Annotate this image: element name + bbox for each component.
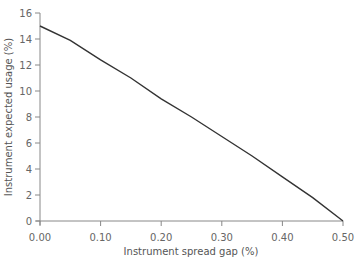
y-tick-label: 6 xyxy=(26,138,32,149)
x-axis: 0.000.100.200.300.400.50 xyxy=(29,221,354,243)
y-tick-label: 2 xyxy=(26,190,32,201)
x-tick-label: 0.20 xyxy=(150,232,172,243)
x-axis-title: Instrument spread gap (%) xyxy=(124,246,259,257)
y-tick-label: 0 xyxy=(26,216,32,227)
y-tick-label: 10 xyxy=(19,86,32,97)
y-tick-label: 8 xyxy=(26,112,32,123)
y-axis: 0246810121416 xyxy=(19,8,40,227)
x-tick-label: 0.50 xyxy=(332,232,354,243)
line-chart: 0246810121416 0.000.100.200.300.400.50 I… xyxy=(0,0,358,264)
y-tick-label: 4 xyxy=(26,164,32,175)
usage-curve xyxy=(40,26,343,221)
x-tick-label: 0.10 xyxy=(89,232,111,243)
x-tick-label: 0.00 xyxy=(29,232,51,243)
y-tick-label: 16 xyxy=(19,8,32,19)
y-tick-label: 12 xyxy=(19,60,32,71)
x-tick-label: 0.30 xyxy=(211,232,233,243)
y-tick-label: 14 xyxy=(19,34,32,45)
x-tick-label: 0.40 xyxy=(271,232,293,243)
y-axis-title: Instrument expected usage (%) xyxy=(3,38,14,196)
